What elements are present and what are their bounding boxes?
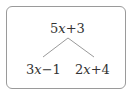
- left-var: x: [34, 62, 41, 77]
- right-branch-line: [68, 38, 94, 57]
- right-child-expression: 2x+4: [75, 63, 110, 77]
- right-rest: +4: [91, 62, 110, 77]
- branch-lines: [0, 0, 132, 95]
- left-rest: −1: [42, 62, 61, 77]
- left-child-expression: 3x−1: [26, 63, 61, 77]
- root-rest: +3: [66, 21, 85, 36]
- right-var: x: [83, 62, 90, 77]
- root-expression: 5x+3: [50, 22, 85, 36]
- root-var: x: [58, 21, 65, 36]
- left-branch-line: [43, 38, 68, 57]
